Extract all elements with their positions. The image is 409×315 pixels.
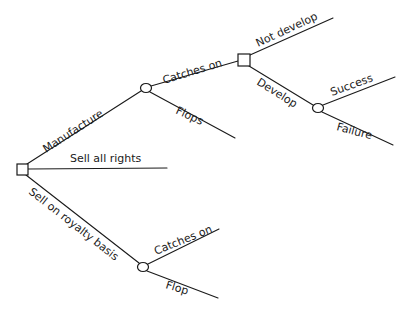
label-success: Success — [329, 71, 375, 98]
label-roy-catches-on: Catches on — [152, 223, 214, 258]
develop-decision-node — [238, 54, 250, 66]
edge-sell-all-rights — [28, 168, 167, 169]
label-mfg-flops: Flops — [174, 104, 206, 128]
royalty-chance-node — [138, 263, 149, 272]
label-mfg-catches-on: Catches on — [161, 56, 224, 86]
root-decision-node — [17, 164, 28, 175]
label-roy-flop: Flop — [164, 278, 190, 297]
manufacture-chance-node — [141, 84, 152, 93]
label-sell-all-rights: Sell all rights — [70, 152, 142, 165]
label-not-develop: Not develop — [254, 10, 320, 50]
decision-tree-diagram: Manufacture Sell all rights Sell on roya… — [0, 0, 409, 315]
label-sell-royalty: Sell on royalty basis — [26, 185, 121, 263]
edge-sell-royalty — [26, 175, 139, 263]
label-failure: Failure — [335, 120, 374, 142]
develop-chance-node — [313, 104, 324, 113]
label-manufacture: Manufacture — [41, 107, 106, 156]
